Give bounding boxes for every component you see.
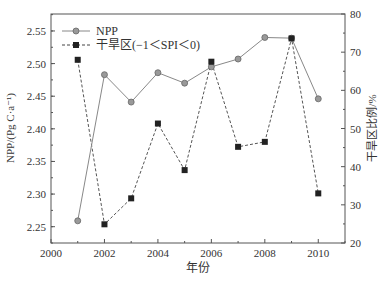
y2-tick-label: 50 <box>350 123 362 135</box>
drought-point <box>128 195 134 201</box>
y-tick-label: 2.55 <box>27 25 47 37</box>
y2-tick-label: 30 <box>350 199 362 211</box>
x-tick-label: 2010 <box>307 247 330 259</box>
legend-npp-label: NPP <box>96 24 118 38</box>
npp-point <box>75 218 81 224</box>
npp-point <box>182 80 188 86</box>
drought-point <box>101 221 107 227</box>
y-tick-label: 2.35 <box>27 155 47 167</box>
drought-point <box>155 121 161 127</box>
x-tick-label: 2008 <box>254 247 277 259</box>
x-axis: 200020022004200620082010 <box>40 239 345 259</box>
npp-point <box>128 99 134 105</box>
y2-tick-label: 40 <box>350 161 362 173</box>
drought-line <box>78 38 319 224</box>
y2-axis-label: 干旱区比例/% <box>365 94 378 161</box>
series-lines <box>75 34 322 227</box>
x-tick-label: 2002 <box>93 247 115 259</box>
y2-tick-label: 70 <box>350 46 362 58</box>
legend: NPP 干旱区(−1＜SPI＜0) <box>62 24 200 52</box>
y2-tick-label: 80 <box>350 8 362 20</box>
npp-point <box>315 96 321 102</box>
x-tick-label: 2000 <box>40 247 63 259</box>
npp-line <box>78 37 319 220</box>
npp-point <box>262 34 268 40</box>
y-tick-label: 2.40 <box>27 123 47 135</box>
npp-point <box>155 70 161 76</box>
drought-point <box>262 139 268 145</box>
x-tick-label: 2006 <box>200 247 223 259</box>
y-tick-label: 2.30 <box>27 188 47 200</box>
drought-point <box>75 57 81 63</box>
drought-point <box>315 190 321 196</box>
y2-tick-label: 20 <box>350 237 362 249</box>
drought-point <box>235 144 241 150</box>
y-tick-label: 2.25 <box>27 221 47 233</box>
legend-drought-label: 干旱区(−1＜SPI＜0) <box>96 38 200 52</box>
npp-point <box>208 64 214 70</box>
npp-point <box>101 72 107 78</box>
y-axis-right: 20304050607080 <box>341 8 362 249</box>
x-tick-label: 2004 <box>147 247 170 259</box>
chart: 200020022004200620082010 2.252.302.352.4… <box>0 0 386 287</box>
x-axis-label: 年份 <box>186 261 210 275</box>
y-tick-label: 2.50 <box>27 58 47 70</box>
drought-point <box>182 167 188 173</box>
y2-tick-label: 60 <box>350 84 362 96</box>
drought-point <box>289 35 295 41</box>
npp-point <box>235 56 241 62</box>
y-axis-label: NPP/(Pg C·a⁻¹) <box>4 93 17 163</box>
y-tick-label: 2.45 <box>27 90 47 102</box>
drought-point <box>208 59 214 65</box>
